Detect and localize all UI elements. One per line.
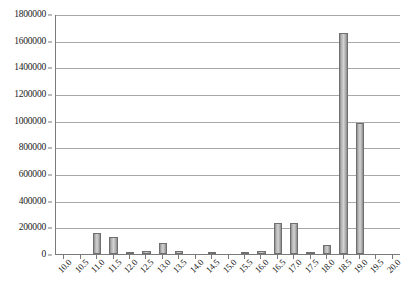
x-axis: 10.010.511.011.512.012.513.013.514.014.5… <box>0 258 412 292</box>
bar <box>208 252 217 254</box>
bar <box>142 251 151 254</box>
y-axis: 0200000400000600000800000100000012000001… <box>0 15 52 255</box>
x-tick-label: 14.5 <box>204 258 221 275</box>
x-tick-label: 15.5 <box>237 258 254 275</box>
y-tick-mark <box>48 148 52 149</box>
bar <box>290 223 299 254</box>
x-tick-label: 11.0 <box>90 258 107 275</box>
y-tick-mark <box>48 121 52 122</box>
bar <box>93 233 102 254</box>
y-tick-label: 1200000 <box>14 90 46 100</box>
bar <box>339 33 348 254</box>
x-tick-label: 18.0 <box>319 258 336 275</box>
x-tick-label: 14.0 <box>188 258 205 275</box>
y-tick-label: 1600000 <box>14 37 46 47</box>
bar <box>323 245 332 254</box>
x-tick-label: 18.5 <box>336 258 353 275</box>
bar-chart: 0200000400000600000800000100000012000001… <box>0 0 412 292</box>
bar <box>109 237 118 254</box>
bar <box>257 251 266 254</box>
y-tick-label: 1400000 <box>14 64 46 74</box>
x-tick-label: 17.0 <box>287 258 304 275</box>
x-tick-label: 11.5 <box>106 258 123 275</box>
y-tick-mark <box>48 255 52 256</box>
y-tick-label: 800000 <box>19 144 46 154</box>
x-tick-label: 10.0 <box>57 258 74 275</box>
y-tick-label: 1800000 <box>14 10 46 20</box>
y-tick-mark <box>48 228 52 229</box>
y-tick-label: 1000000 <box>14 117 46 127</box>
bar <box>126 252 135 254</box>
bar <box>274 223 283 254</box>
y-tick-label: 400000 <box>19 197 46 207</box>
x-tick-label: 17.5 <box>303 258 320 275</box>
y-tick-label: 600000 <box>19 170 46 180</box>
bars-layer <box>56 15 400 254</box>
y-tick-mark <box>48 41 52 42</box>
y-tick-mark <box>48 68 52 69</box>
bar <box>175 251 184 254</box>
y-tick-mark <box>48 201 52 202</box>
x-tick-label: 16.5 <box>270 258 287 275</box>
bar <box>356 123 365 254</box>
x-tick-label: 19.0 <box>352 258 369 275</box>
x-tick-label: 13.5 <box>172 258 189 275</box>
x-tick-label: 20.0 <box>385 258 402 275</box>
bar <box>241 252 250 254</box>
y-tick-mark <box>48 15 52 16</box>
x-tick-label: 12.5 <box>139 258 156 275</box>
x-tick-label: 16.0 <box>254 258 271 275</box>
y-tick-mark <box>48 95 52 96</box>
y-tick-mark <box>48 175 52 176</box>
plot-area <box>55 15 400 255</box>
x-tick-label: 10.5 <box>73 258 90 275</box>
x-tick-label: 19.5 <box>369 258 386 275</box>
bar <box>306 252 315 254</box>
x-tick-label: 13.0 <box>155 258 172 275</box>
x-tick-label: 15.0 <box>221 258 238 275</box>
y-tick-label: 200000 <box>19 224 46 234</box>
bar <box>159 243 168 254</box>
x-tick-label: 12.0 <box>122 258 139 275</box>
